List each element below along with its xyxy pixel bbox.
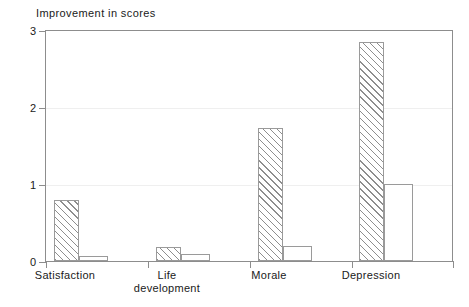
gridline-y-2 <box>46 108 452 109</box>
bar-depression-open <box>384 184 413 261</box>
y-tick-1 <box>39 185 46 186</box>
x-label-depression: Depression <box>316 269 426 282</box>
y-tick-label-1: 1 <box>30 179 36 191</box>
bar-life-development-hatched <box>156 247 181 261</box>
plot-area: 0 1 2 3 <box>45 30 453 262</box>
y-tick-3 <box>39 31 46 32</box>
x-tick-0 <box>46 261 47 268</box>
y-tick-label-0: 0 <box>30 256 36 268</box>
x-tick-4 <box>453 261 454 268</box>
x-tick-2 <box>250 261 251 268</box>
chart-title: Improvement in scores <box>36 7 156 19</box>
y-tick-label-3: 3 <box>30 25 36 37</box>
x-label-satisfaction: Satisfaction <box>10 269 120 282</box>
bar-life-development-open <box>181 254 210 261</box>
x-label-life-development: Life development <box>112 269 222 295</box>
y-tick-label-2: 2 <box>30 102 36 114</box>
bar-morale-open <box>283 246 312 261</box>
bar-morale-hatched <box>258 128 283 261</box>
x-label-morale: Morale <box>214 269 324 282</box>
y-tick-0 <box>39 262 46 263</box>
chart-figure: Improvement in scores 0 1 2 3 <box>0 0 469 307</box>
bar-satisfaction-hatched <box>54 200 79 261</box>
x-tick-3 <box>352 261 353 268</box>
bar-satisfaction-open <box>79 256 108 261</box>
y-tick-2 <box>39 108 46 109</box>
x-tick-1 <box>148 261 149 268</box>
bar-depression-hatched <box>359 42 384 261</box>
